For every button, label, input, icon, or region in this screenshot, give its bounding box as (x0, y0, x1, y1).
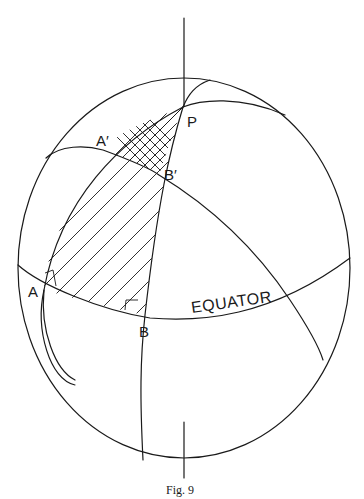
hatched-region (20, 50, 200, 450)
label-a: A (28, 283, 38, 300)
right-angle-marker-b (125, 300, 138, 310)
slanted-great-circle (46, 147, 323, 360)
label-a-prime: A′ (96, 132, 109, 149)
meridian-b (141, 107, 183, 460)
sphere-outline (18, 78, 350, 458)
label-b-prime: B′ (164, 166, 177, 183)
label-p: P (187, 113, 197, 130)
label-equator: EQUATOR (190, 288, 273, 316)
left-rim-arc (41, 290, 75, 385)
figure-caption: Fig. 9 (166, 483, 194, 497)
sphere-diagram: P A′ B′ A B EQUATOR Fig. 9 (0, 0, 364, 499)
upper-great-circle (183, 101, 285, 115)
equator-line (18, 258, 350, 319)
label-b: B (139, 323, 149, 340)
